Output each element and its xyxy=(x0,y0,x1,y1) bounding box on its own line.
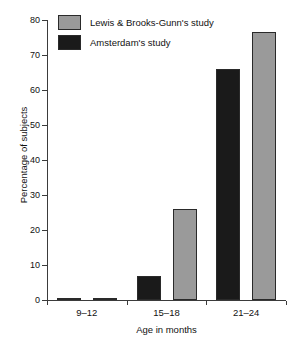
legend-swatch xyxy=(58,35,81,50)
y-tick-label: 0 xyxy=(2,295,40,305)
y-axis-title: Percentage of subjects xyxy=(19,55,29,255)
legend-item: Lewis & Brooks-Gunn's study xyxy=(58,12,283,32)
y-axis-line xyxy=(47,20,48,301)
bar xyxy=(216,69,240,300)
x-tick-mark xyxy=(127,301,128,305)
y-tick-mark xyxy=(42,160,47,161)
legend-label: Amsterdam's study xyxy=(90,37,170,48)
bar xyxy=(57,298,81,300)
legend-item: Amsterdam's study xyxy=(58,32,283,52)
chart-legend: Lewis & Brooks-Gunn's studyAmsterdam's s… xyxy=(58,12,283,52)
y-tick-label: 10 xyxy=(2,260,40,270)
legend-swatch xyxy=(58,15,81,30)
x-category-label: 9–12 xyxy=(47,307,127,318)
y-tick-mark xyxy=(42,20,47,21)
x-tick-mark xyxy=(47,301,48,305)
y-tick-mark xyxy=(42,265,47,266)
x-tick-mark xyxy=(286,301,287,305)
x-category-label: 21–24 xyxy=(206,307,286,318)
y-tick-mark xyxy=(42,125,47,126)
y-tick-mark xyxy=(42,195,47,196)
x-axis-line xyxy=(47,300,286,301)
bar xyxy=(93,298,117,300)
legend-label: Lewis & Brooks-Gunn's study xyxy=(90,17,214,28)
x-axis-title: Age in months xyxy=(47,325,286,335)
y-tick-label: 80 xyxy=(2,15,40,25)
bar-chart-figure: 01020304050607080 9–1215–1821–24 Percent… xyxy=(0,0,294,342)
bar xyxy=(252,32,276,300)
bar xyxy=(137,276,161,301)
y-tick-mark xyxy=(42,90,47,91)
x-tick-mark xyxy=(206,301,207,305)
y-tick-mark xyxy=(42,230,47,231)
x-category-label: 15–18 xyxy=(127,307,207,318)
y-tick-mark xyxy=(42,55,47,56)
bar xyxy=(173,209,197,300)
